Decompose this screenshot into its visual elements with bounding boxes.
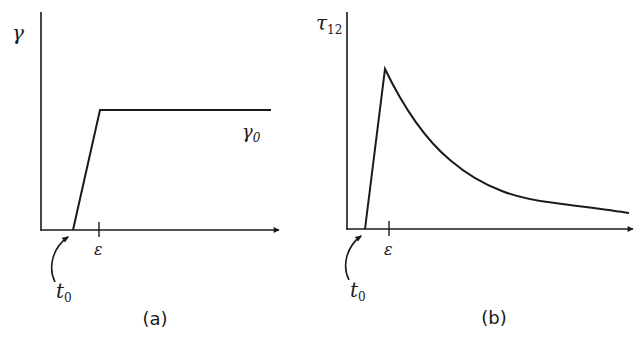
y-axis-label: γ: [12, 21, 24, 45]
epsilon-label: ε: [384, 240, 393, 259]
t0-label: t0: [350, 278, 366, 304]
panel-b: τ12 ε t0 (b): [316, 11, 633, 328]
curve-label-gamma0: γ0: [242, 121, 261, 145]
t0-label: t0: [56, 279, 72, 305]
caption-a: (a): [142, 308, 167, 329]
y-axis-label: τ12: [316, 11, 342, 37]
epsilon-label: ε: [94, 240, 103, 259]
stress-curve: [365, 69, 629, 229]
panel-a: γ γ0 ε t0 (a): [12, 12, 279, 329]
figure: γ γ0 ε t0 (a) τ12 ε t0 (b): [0, 0, 636, 338]
t0-pointer-arrow: [346, 236, 361, 280]
t0-pointer-arrow: [52, 237, 68, 282]
caption-b: (b): [481, 307, 506, 328]
